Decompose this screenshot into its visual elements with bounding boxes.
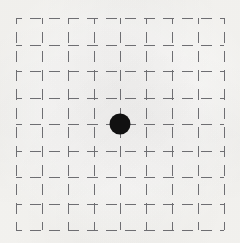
grid-plot: [0, 0, 240, 243]
figure-canvas: [0, 0, 240, 243]
data-point-layer: [110, 114, 131, 135]
data-point-marker: [110, 114, 131, 135]
